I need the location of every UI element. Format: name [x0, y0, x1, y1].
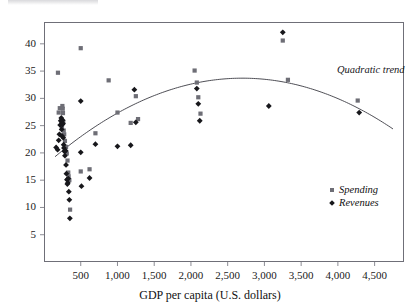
y-axis-tick-label: 35 [4, 65, 36, 76]
data-point-spending [134, 94, 138, 98]
quadratic-trend-line [55, 78, 393, 157]
series-spending-markers [56, 38, 360, 211]
data-point-spending [195, 80, 199, 84]
series-revenues-markers [53, 29, 362, 221]
data-point-revenues [93, 141, 99, 147]
data-point-spending [196, 95, 200, 99]
data-point-spending [87, 167, 91, 171]
data-point-revenues [66, 189, 72, 195]
data-point-revenues [78, 98, 84, 104]
data-point-revenues [280, 29, 286, 35]
data-point-spending [129, 121, 133, 125]
data-point-revenues [87, 175, 93, 181]
data-point-spending [198, 112, 202, 116]
data-point-spending [286, 78, 290, 82]
legend-label-spending: Spending [339, 183, 378, 196]
square-marker-icon [330, 188, 334, 192]
y-axis-tick-label: 20 [4, 147, 36, 158]
x-axis-title: GDP per capita (U.S. dollars) [0, 288, 420, 303]
y-axis-tick-label: 25 [4, 120, 36, 131]
legend-label-revenues: Revenues [339, 196, 379, 209]
y-axis-tick-label: 15 [4, 174, 36, 185]
trend-annotation-label: Quadratic trend [337, 64, 405, 75]
y-axis-tick-label: 30 [4, 92, 36, 103]
data-point-revenues [56, 137, 62, 143]
chart-legend: Spending Revenues [330, 183, 379, 209]
data-point-spending [61, 107, 65, 111]
data-point-revenues [197, 118, 203, 124]
data-point-spending [115, 110, 119, 114]
data-point-revenues [78, 149, 84, 155]
data-point-revenues [195, 101, 201, 107]
data-point-spending [61, 111, 65, 115]
x-axis-tick-label: 4,500 [351, 270, 399, 281]
y-axis-tick-label: 5 [4, 229, 36, 240]
data-point-revenues [266, 103, 272, 109]
data-point-spending [68, 208, 72, 212]
chart-canvas [0, 0, 420, 307]
data-point-revenues [194, 86, 200, 92]
data-point-spending [79, 46, 83, 50]
y-axis-tick-label: 40 [4, 38, 36, 49]
diamond-marker-icon [329, 200, 335, 206]
data-point-spending [281, 38, 285, 42]
chart-figure: 510152025303540 5001,0001,5002,0002,5003… [0, 0, 420, 307]
data-point-spending [57, 110, 61, 114]
data-point-revenues [67, 215, 73, 221]
data-point-revenues [356, 110, 362, 116]
data-point-spending [107, 78, 111, 82]
data-point-spending [79, 169, 83, 173]
data-point-revenues [79, 183, 85, 189]
data-point-spending [193, 68, 197, 72]
y-axis-tick-label: 10 [4, 201, 36, 212]
data-point-spending [56, 71, 60, 75]
data-point-revenues [131, 87, 137, 93]
data-point-spending [93, 131, 97, 135]
data-point-revenues [66, 197, 72, 203]
axis-ticks [40, 44, 375, 266]
data-point-revenues [115, 143, 121, 149]
data-point-spending [356, 98, 360, 102]
legend-item-spending: Spending [330, 183, 379, 196]
data-point-revenues [128, 142, 134, 148]
data-point-revenues [63, 162, 69, 168]
legend-item-revenues: Revenues [330, 196, 379, 209]
